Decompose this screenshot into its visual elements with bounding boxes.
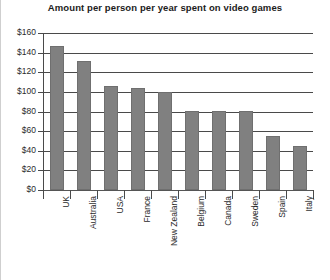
y-axis-tick-label: $100 xyxy=(2,86,36,96)
bar xyxy=(239,111,253,190)
chart-title: Amount per person per year spent on vide… xyxy=(0,2,330,13)
bar-chart-figure: Amount per person per year spent on vide… xyxy=(0,0,330,280)
y-axis-tick-label: $160 xyxy=(2,27,36,37)
y-axis-tick-label: $40 xyxy=(2,145,36,155)
x-axis-tick-label: New Zealand xyxy=(169,196,179,246)
y-axis-tick xyxy=(38,92,44,93)
bar xyxy=(158,92,172,190)
x-axis-tick-label: Spain xyxy=(277,196,287,218)
x-axis-tick-label: Australia xyxy=(88,196,98,229)
y-axis-tick xyxy=(38,53,44,54)
y-axis-tick xyxy=(38,170,44,171)
bar xyxy=(50,46,64,190)
y-axis-tick-label: $0 xyxy=(2,184,36,194)
bar xyxy=(77,61,91,190)
x-axis-tick-label: USA xyxy=(115,196,125,213)
y-axis-tick-label: $20 xyxy=(2,164,36,174)
y-axis-tick-label: $120 xyxy=(2,66,36,76)
bar xyxy=(293,146,307,190)
y-axis-tick xyxy=(38,190,44,191)
y-axis-tick xyxy=(38,131,44,132)
y-axis-tick xyxy=(38,72,44,73)
bar xyxy=(185,111,199,190)
bar-series xyxy=(43,33,313,190)
y-axis-labels: $160$140$120$100$80$60$40$20$0 xyxy=(0,33,36,191)
y-axis-tick xyxy=(38,112,44,113)
y-axis-tick-label: $60 xyxy=(2,125,36,135)
x-axis-tick-label: Sweden xyxy=(250,196,260,227)
x-axis-tick-label: France xyxy=(142,196,152,222)
x-axis-labels: UKAustraliaUSAFranceNew ZealandBelgiumCa… xyxy=(43,196,313,280)
x-axis-tick-label: Belgium xyxy=(196,196,206,227)
bar xyxy=(212,111,226,190)
y-axis-tick xyxy=(38,33,44,34)
y-axis-tick-label: $140 xyxy=(2,47,36,57)
bar xyxy=(131,88,145,190)
bar xyxy=(266,136,280,190)
y-axis-tick-label: $80 xyxy=(2,106,36,116)
x-axis-tick-label: UK xyxy=(61,196,71,208)
y-axis-tick xyxy=(38,151,44,152)
bar xyxy=(104,86,118,190)
x-axis-tick-label: Italy xyxy=(304,196,314,212)
x-axis-tick-label: Canada xyxy=(223,196,233,226)
